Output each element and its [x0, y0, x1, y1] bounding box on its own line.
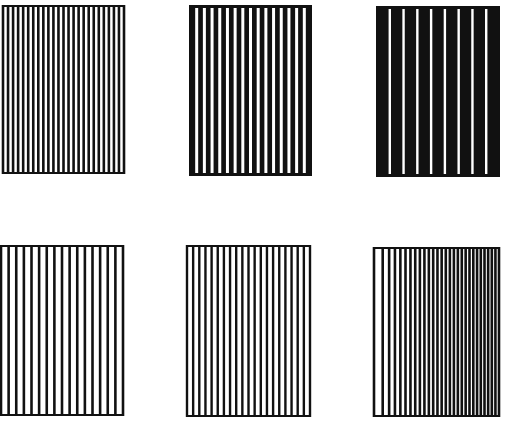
stripe-figure	[0, 0, 505, 421]
panel-top-right	[376, 6, 500, 177]
panel-bottom-right	[374, 247, 499, 417]
panel-top-left	[3, 5, 124, 174]
panel-top-middle	[189, 5, 312, 176]
panel-bottom-middle	[187, 245, 310, 417]
panel-bottom-left	[1, 245, 123, 416]
